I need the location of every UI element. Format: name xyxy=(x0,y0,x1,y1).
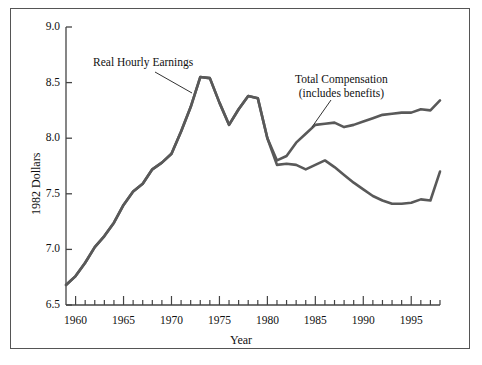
data-series-group xyxy=(66,77,440,285)
x-tick-label: 1970 xyxy=(146,315,196,327)
x-axis-ticks xyxy=(76,296,440,305)
y-tick-label: 8.5 xyxy=(22,77,60,89)
line-total-compensation xyxy=(66,77,440,285)
chart-canvas xyxy=(0,0,482,365)
y-tick-label: 9.0 xyxy=(22,21,60,33)
x-tick-label: 1965 xyxy=(99,315,149,327)
y-tick-label: 8.0 xyxy=(22,132,60,144)
annotation-compensation-line-1: Total Compensation xyxy=(295,72,388,86)
annotation-real-hourly-earnings: Real Hourly Earnings xyxy=(93,55,193,69)
annotation-earnings-line-1: Real Hourly Earnings xyxy=(93,55,193,69)
annotation-compensation-line-2: (includes benefits) xyxy=(295,86,388,100)
chart-figure: 6.57.07.58.08.59.0 196019651970197519801… xyxy=(0,0,482,365)
x-tick-label: 1980 xyxy=(242,315,292,327)
y-tick-label: 7.0 xyxy=(22,243,60,255)
x-axis-title: Year xyxy=(0,334,482,346)
annotation-total-compensation: Total Compensation (includes benefits) xyxy=(295,72,388,100)
x-tick-label: 1960 xyxy=(51,315,101,327)
leader-line-earnings xyxy=(155,72,192,93)
y-axis-title: 1982 Dollars xyxy=(30,153,42,215)
x-tick-label: 1985 xyxy=(290,315,340,327)
x-tick-label: 1975 xyxy=(194,315,244,327)
x-tick-label: 1995 xyxy=(386,315,436,327)
line-real-hourly-earnings xyxy=(66,77,440,285)
y-axis-ticks xyxy=(66,27,72,305)
y-tick-label: 6.5 xyxy=(22,299,60,311)
x-tick-label: 1990 xyxy=(338,315,388,327)
